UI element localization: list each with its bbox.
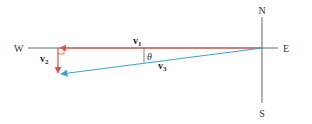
vector-v3-label: v3 xyxy=(158,60,167,73)
vector-diagram: N S E W v1 v2 v3 θ xyxy=(0,0,312,124)
south-label: S xyxy=(259,108,265,119)
east-label: E xyxy=(283,43,289,54)
right-angle-marker xyxy=(58,48,64,54)
west-label: W xyxy=(14,43,24,54)
vector-v2-label: v2 xyxy=(40,53,49,66)
angle-theta-label: θ xyxy=(147,51,152,62)
vector-v1-label: v1 xyxy=(133,35,142,48)
north-label: N xyxy=(258,5,265,16)
